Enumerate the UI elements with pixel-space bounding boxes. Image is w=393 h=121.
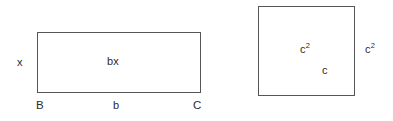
square-external-label-c-squared: c2 (365, 44, 375, 55)
rectangle-height-label-x: x (17, 57, 23, 68)
geometry-diagram-canvas: x bx B b C c2 c c2 (0, 0, 393, 121)
rectangle-base-label-b: b (113, 100, 119, 111)
square-area-label-c-squared: c2 (300, 44, 310, 55)
square-area-exponent: 2 (306, 41, 310, 50)
rectangle-vertex-label-b: B (36, 100, 44, 111)
square-external-exponent: 2 (371, 41, 375, 50)
rectangle-area-label-bx: bx (107, 56, 119, 67)
rectangle-vertex-label-c: C (193, 100, 202, 111)
square-side-label-c: c (322, 65, 328, 76)
